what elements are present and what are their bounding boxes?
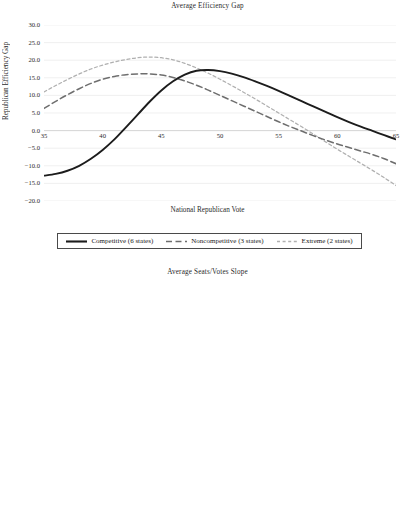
y-tick-label: 10.0 bbox=[10, 91, 40, 98]
legend-swatch-dashed bbox=[166, 239, 187, 244]
x-tick-label: 60 bbox=[323, 132, 351, 139]
y-tick-label: −15.0 bbox=[10, 179, 40, 186]
x-tick-label: 65 bbox=[382, 132, 410, 139]
plot-area-efficiency-gap bbox=[44, 25, 396, 201]
y-tick-label: 5.0 bbox=[10, 109, 40, 116]
legend-efficiency-gap: Competitive (6 states)Noncompetitive (3 … bbox=[57, 233, 362, 249]
y-axis-label-efficiency-gap: Republican Efficiency Gap bbox=[2, 42, 10, 120]
figure-page: Average Efficiency Gap Republican Effici… bbox=[0, 0, 415, 532]
x-tick-label: 35 bbox=[30, 132, 58, 139]
x-axis-label-efficiency-gap: National Republican Vote bbox=[0, 206, 415, 214]
y-tick-label: 25.0 bbox=[10, 39, 40, 46]
y-tick-label: −20.0 bbox=[10, 197, 40, 204]
legend-item[interactable]: Noncompetitive (3 states) bbox=[166, 237, 263, 245]
legend-swatch-solid bbox=[66, 239, 87, 244]
legend-swatch-dotted bbox=[277, 239, 298, 244]
chart-average-seats-votes-slope: Average Seats/Votes Slope Seats/Votes Sl… bbox=[0, 266, 415, 532]
series-line-solid bbox=[44, 70, 396, 176]
y-tick-label: −10.0 bbox=[10, 162, 40, 169]
y-tick-label: 15.0 bbox=[10, 74, 40, 81]
y-tick-label: 20.0 bbox=[10, 56, 40, 63]
series-line-dotted bbox=[44, 57, 396, 185]
chart-title-efficiency-gap: Average Efficiency Gap bbox=[0, 2, 415, 10]
y-tick-label: −5.0 bbox=[10, 144, 40, 151]
legend-item[interactable]: Competitive (6 states) bbox=[66, 237, 153, 245]
chart-title-seats-votes-slope: Average Seats/Votes Slope bbox=[0, 268, 415, 276]
x-tick-label: 55 bbox=[265, 132, 293, 139]
y-tick-label: 30.0 bbox=[10, 21, 40, 28]
x-tick-label: 40 bbox=[89, 132, 117, 139]
legend-item-label: Extreme (2 states) bbox=[302, 237, 353, 245]
legend-item[interactable]: Extreme (2 states) bbox=[277, 237, 353, 245]
x-tick-label: 50 bbox=[206, 132, 234, 139]
legend-item-label: Noncompetitive (3 states) bbox=[191, 237, 263, 245]
x-tick-label: 45 bbox=[147, 132, 175, 139]
legend-item-label: Competitive (6 states) bbox=[91, 237, 153, 245]
chart-average-efficiency-gap: Average Efficiency Gap Republican Effici… bbox=[0, 0, 415, 266]
